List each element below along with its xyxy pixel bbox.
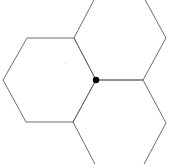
diagram-svg xyxy=(0,0,169,164)
hexagon-group xyxy=(3,0,166,164)
shared-vertex-dot xyxy=(93,77,99,83)
bottom-right-hexagon xyxy=(73,80,166,164)
hexagon-diagram xyxy=(0,0,169,164)
faint-mark xyxy=(64,62,65,63)
top-right-hexagon xyxy=(74,0,166,80)
left-hexagon xyxy=(3,38,96,122)
